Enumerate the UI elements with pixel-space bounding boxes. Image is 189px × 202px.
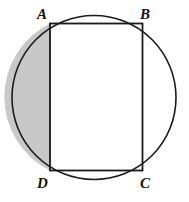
vertex-label-a: A xyxy=(37,7,47,22)
geometry-figure: A B C D xyxy=(0,0,189,202)
vertex-label-b: B xyxy=(140,7,150,22)
rectangle-interior xyxy=(50,24,143,171)
vertex-label-c: C xyxy=(140,176,150,191)
circle-rectangle-diagram xyxy=(0,0,189,202)
vertex-label-d: D xyxy=(37,176,48,191)
